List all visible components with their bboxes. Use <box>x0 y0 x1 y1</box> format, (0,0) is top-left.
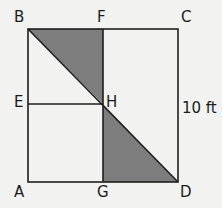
point-label-e: E <box>14 95 23 110</box>
point-label-a: A <box>14 185 24 200</box>
geometry-diagram: B F C E H 10 ft A G D <box>0 0 222 208</box>
point-label-c: C <box>181 10 191 25</box>
point-label-h: H <box>106 95 117 110</box>
side-length-label: 10 ft <box>182 101 217 116</box>
point-label-g: G <box>97 185 109 200</box>
point-label-b: B <box>14 10 24 25</box>
point-label-d: D <box>180 185 192 200</box>
point-label-f: F <box>97 10 106 25</box>
